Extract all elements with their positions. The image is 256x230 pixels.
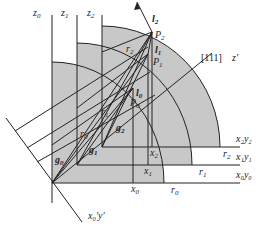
label-direction-111: [111] <box>201 52 222 63</box>
label-r0: r0 <box>171 184 179 197</box>
label-r1: r1 <box>199 166 206 179</box>
label-x0: x0 <box>130 183 139 196</box>
label-z0: z0 <box>32 7 41 20</box>
label-z2: z2 <box>86 7 95 20</box>
label-r2: r2 <box>223 148 231 161</box>
label-x0y0: x₀y₀ <box>235 169 252 180</box>
label-x1y1: x₁y₁ <box>235 151 252 162</box>
l2-line <box>137 2 152 32</box>
label-x0y-prime: x₀′y′ <box>87 210 106 221</box>
diagram-canvas: z0 z1 z2 l2 P2 l1 P1 [111] z′ r2 l0 P0 r… <box>0 0 256 230</box>
label-x2y2: x₂y₂ <box>235 133 252 144</box>
label-l2: l2 <box>152 13 159 26</box>
label-z-prime: z′ <box>231 52 239 63</box>
label-z1: z1 <box>60 7 68 20</box>
